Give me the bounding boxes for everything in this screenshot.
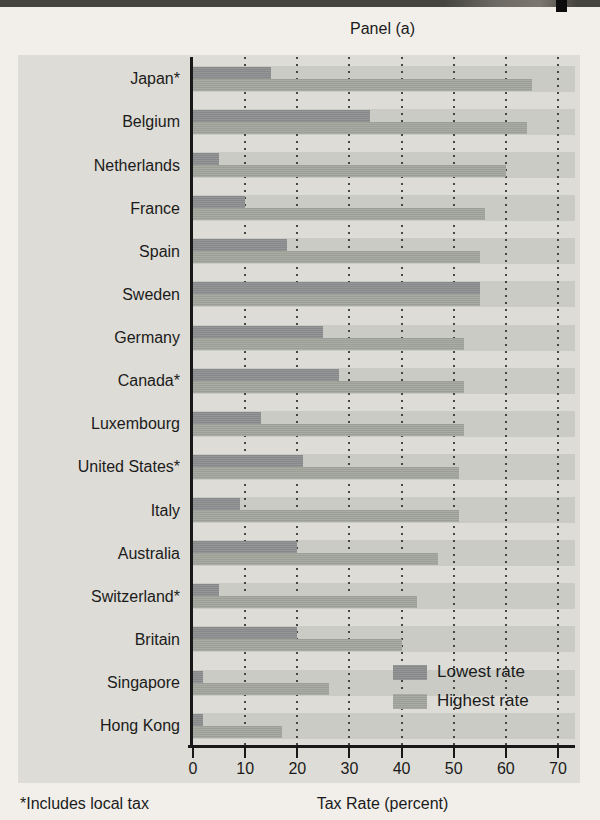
legend-swatch-lowest (393, 665, 427, 680)
bar-lowest-rate (193, 110, 370, 122)
bar-lowest-rate (193, 584, 219, 596)
country-label: United States* (18, 456, 180, 477)
bar-highest-rate (193, 639, 402, 651)
bar-lowest-rate (193, 541, 297, 553)
legend-row-lowest: Lowest rate (393, 662, 529, 682)
axis-tick-label: 40 (384, 760, 420, 778)
legend: Lowest rate Highest rate (393, 662, 529, 720)
bar-highest-rate (193, 208, 485, 220)
bar-lowest-rate (193, 239, 287, 251)
axis-tick (557, 748, 559, 758)
bar-lowest-rate (193, 455, 303, 467)
bar-lowest-rate (193, 196, 245, 208)
bar-highest-rate (193, 338, 464, 350)
country-label: Australia (18, 543, 180, 564)
country-label: Switzerland* (18, 586, 180, 607)
axis-tick (401, 748, 403, 758)
country-label: Hong Kong (18, 715, 180, 736)
axis-tick-label: 60 (488, 760, 524, 778)
legend-swatch-highest (393, 694, 427, 709)
axis-tick-label: 0 (175, 760, 211, 778)
country-label: Belgium (18, 111, 180, 132)
country-label: Singapore (18, 672, 180, 693)
bar-lowest-rate (193, 326, 323, 338)
country-label: Luxembourg (18, 413, 180, 434)
footnote: *Includes local tax (20, 795, 149, 813)
panel-title: Panel (a) (190, 20, 575, 38)
x-axis-title: Tax Rate (percent) (190, 795, 575, 813)
bar-lowest-rate (193, 67, 271, 79)
legend-label-highest: Highest rate (437, 691, 529, 711)
bar-highest-rate (193, 553, 438, 565)
page-top-rule (0, 0, 600, 7)
country-label: Sweden (18, 284, 180, 305)
bar-highest-rate (193, 251, 480, 263)
axis-tick (244, 748, 246, 758)
axis-tick (505, 748, 507, 758)
legend-row-highest: Highest rate (393, 691, 529, 711)
bar-lowest-rate (193, 627, 297, 639)
bar-lowest-rate (193, 282, 480, 294)
bar-highest-rate (193, 726, 282, 738)
country-label: Germany (18, 327, 180, 348)
bar-lowest-rate (193, 498, 240, 510)
figure: Japan*BelgiumNetherlandsFranceSpainSwede… (18, 55, 580, 783)
bar-highest-rate (193, 79, 532, 91)
country-label: Japan* (18, 68, 180, 89)
bar-lowest-rate (193, 153, 219, 165)
bar-highest-rate (193, 424, 464, 436)
bar-highest-rate (193, 165, 506, 177)
bar-lowest-rate (193, 412, 261, 424)
axis-tick-label: 10 (227, 760, 263, 778)
bar-highest-rate (193, 596, 417, 608)
gridline (453, 57, 455, 745)
bar-lowest-rate (193, 369, 339, 381)
gridline (557, 57, 559, 745)
country-label: France (18, 198, 180, 219)
bar-highest-rate (193, 381, 464, 393)
axis-tick-label: 50 (436, 760, 472, 778)
axis-tick-label: 20 (279, 760, 315, 778)
country-label: Italy (18, 500, 180, 521)
plot-area: Lowest rate Highest rate 010203040506070 (190, 57, 575, 747)
axis-tick-label: 30 (331, 760, 367, 778)
bar-highest-rate (193, 122, 527, 134)
legend-label-lowest: Lowest rate (437, 662, 525, 682)
axis-tick (348, 748, 350, 758)
bar-highest-rate (193, 467, 459, 479)
bar-highest-rate (193, 294, 480, 306)
axis-tick (453, 748, 455, 758)
bar-highest-rate (193, 510, 459, 522)
country-label: Spain (18, 241, 180, 262)
country-label: Britain (18, 629, 180, 650)
axis-tick (192, 748, 194, 758)
page-corner-mark (556, 0, 567, 12)
bar-highest-rate (193, 683, 329, 695)
scanned-page: Panel (a) Japan*BelgiumNetherlandsFrance… (0, 0, 600, 820)
country-label: Netherlands (18, 155, 180, 176)
country-label: Canada* (18, 370, 180, 391)
bar-lowest-rate (193, 671, 203, 683)
gridline (505, 57, 507, 745)
bar-lowest-rate (193, 714, 203, 726)
axis-tick-label: 70 (540, 760, 576, 778)
axis-tick (296, 748, 298, 758)
country-labels: Japan*BelgiumNetherlandsFranceSpainSwede… (18, 57, 180, 747)
